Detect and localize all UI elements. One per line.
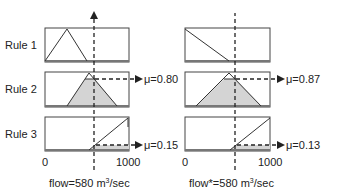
diagram-canvas: Rule 1 Rule 2 Rule 3 <box>0 0 341 194</box>
left-rule-3-plot <box>45 117 129 151</box>
right-rule-2-plot <box>185 72 270 107</box>
fuzzy-rule-diagram: Rule 1 Rule 2 Rule 3 <box>0 0 341 194</box>
left-caption: flow=580 m3/sec <box>49 177 130 189</box>
rule-1-label: Rule 1 <box>5 39 37 51</box>
right-rule-3-plot <box>185 117 270 151</box>
left-mu-rule-2: μ=0.80 <box>144 73 178 85</box>
right-caption: flow*=580 m3/sec <box>189 177 274 189</box>
left-axis-min: 0 <box>42 156 48 168</box>
right-rule-1-plot <box>185 28 270 62</box>
right-panel: μ=0.87 μ=0.13 0 1000 flow*=580 m3/sec <box>182 13 320 189</box>
rule-2-label: Rule 2 <box>5 83 37 95</box>
rule-3-label: Rule 3 <box>5 128 37 140</box>
left-panel: μ=0.80 μ=0.15 0 1000 flow=580 m3/sec <box>42 13 178 189</box>
right-axis-min: 0 <box>182 156 188 168</box>
right-axis-max: 1000 <box>258 156 282 168</box>
right-mu-rule-2: μ=0.87 <box>286 73 320 85</box>
left-rule-2-plot <box>45 72 129 107</box>
right-mu-rule-3: μ=0.13 <box>286 139 320 151</box>
left-mu-rule-3: μ=0.15 <box>144 139 178 151</box>
left-rule-1-plot <box>45 28 129 62</box>
left-axis-max: 1000 <box>116 156 140 168</box>
